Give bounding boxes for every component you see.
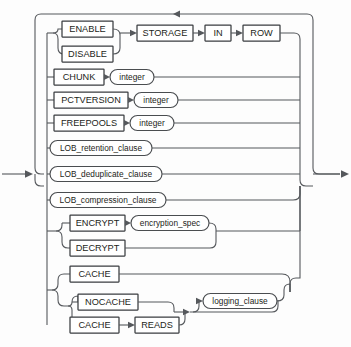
keyword-label-encrypt: ENCRYPT — [76, 218, 120, 228]
connector-arrow-icon-in — [198, 30, 205, 37]
branch-pctversion: PCTVERSION integer — [47, 92, 300, 108]
branch-lob-deduplicate-clause: LOB_deduplicate_clause — [47, 167, 300, 182]
nonterminal-label-lob-compression-clause: LOB_compression_clause — [60, 195, 157, 205]
railroad-canvas: ENABLE DISABLE STORAGE IN ROW CHUNK inte… — [0, 0, 351, 347]
branch-spine-right — [300, 41, 313, 186]
nonterminal-label-lob-deduplicate-clause: LOB_deduplicate_clause — [60, 169, 153, 179]
keyword-label-chunk: CHUNK — [63, 72, 97, 82]
nonterminal-label-pctversion-integer: integer — [143, 95, 169, 105]
loop-arrow-icon — [173, 11, 180, 18]
entry-connector — [2, 170, 33, 177]
keyword-label-cache-reads: CACHE — [78, 320, 110, 330]
branch-lob-compression-clause: LOB_compression_clause — [47, 186, 300, 208]
connector-arrow-icon-storage — [130, 30, 137, 37]
entry-arrow-icon — [25, 170, 33, 177]
connector-arrow-icon-encryption-spec — [125, 220, 131, 226]
keyword-label-storage: STORAGE — [143, 28, 188, 38]
keyword-label-disable: DISABLE — [68, 49, 107, 59]
connector-arrow-icon-chunk-integer — [104, 74, 110, 80]
keyword-label-reads: READS — [141, 320, 173, 330]
railroad-diagram: ENABLE DISABLE STORAGE IN ROW CHUNK inte… — [0, 0, 351, 347]
keyword-label-freepools: FREEPOOLS — [61, 118, 117, 128]
keyword-label-in: IN — [213, 28, 222, 38]
exit-arrow-icon — [341, 170, 349, 177]
nonterminal-label-freepools-integer: integer — [139, 118, 165, 128]
keyword-label-cache: CACHE — [78, 269, 110, 279]
nonterminal-label-lob-retention-clause: LOB_retention_clause — [60, 143, 142, 153]
nonterminal-label-chunk-integer: integer — [119, 72, 145, 82]
left-outer-rail — [35, 26, 44, 186]
connector-arrow-icon-reads — [128, 322, 135, 329]
keyword-label-nocache: NOCACHE — [85, 297, 131, 307]
branch-lob-retention-clause: LOB_retention_clause — [47, 141, 300, 156]
keyword-label-enable: ENABLE — [69, 24, 105, 34]
nonterminal-label-logging-clause: logging_clause — [212, 296, 268, 306]
connector-arrow-icon-logging — [183, 309, 190, 316]
connector-arrow-icon-freepools-integer — [124, 120, 130, 126]
branch-chunk: CHUNK integer — [47, 69, 300, 85]
branch-freepools: FREEPOOLS integer — [47, 115, 300, 131]
keyword-label-pctversion: PCTVERSION — [61, 95, 121, 105]
branch-storage-in-row: ENABLE DISABLE STORAGE IN ROW — [47, 21, 300, 62]
keyword-label-row: ROW — [250, 28, 273, 38]
nonterminal-label-encryption-spec: encryption_spec — [140, 218, 200, 228]
connector-arrow-icon-row — [236, 30, 243, 37]
keyword-label-decrypt: DECRYPT — [76, 243, 120, 253]
connector-arrow-icon-pctversion-integer — [128, 97, 134, 103]
exit-connector — [313, 168, 349, 178]
